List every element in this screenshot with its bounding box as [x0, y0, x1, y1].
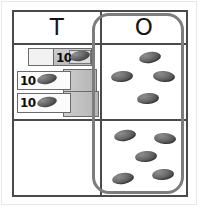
- place-value-chart: T O 10 10: [12, 10, 188, 197]
- ones-dot: [137, 92, 160, 105]
- ones-dot: [153, 70, 176, 83]
- ones-dot: [111, 70, 134, 83]
- ones-dot: [135, 150, 158, 163]
- ten-block-3: 10: [17, 91, 99, 117]
- tens-lower-cell[interactable]: [14, 121, 102, 195]
- ones-dot: [113, 128, 136, 142]
- tens-column-header-cell: T: [14, 12, 102, 45]
- ones-dot: [138, 50, 161, 64]
- ones-dot: [111, 171, 134, 185]
- ten-block-2-label: 10: [20, 75, 36, 87]
- ones-upper-cell[interactable]: [102, 45, 186, 121]
- ten-block-2: 10: [17, 69, 97, 93]
- ten-block-1: 10: [28, 47, 92, 71]
- ones-dot: [154, 132, 177, 145]
- ones-column-header-cell: O: [102, 12, 186, 45]
- tens-upper-cell[interactable]: 10 10 10: [14, 45, 102, 121]
- ones-column-header-label: O: [135, 16, 154, 39]
- ones-lower-cell[interactable]: [102, 121, 186, 195]
- tens-column-header-label: T: [50, 16, 65, 39]
- ten-block-1-left-face: [28, 48, 54, 66]
- ten-block-3-label: 10: [20, 97, 36, 109]
- tens-block-stack: 10 10 10: [17, 47, 101, 119]
- ones-dot: [152, 168, 175, 181]
